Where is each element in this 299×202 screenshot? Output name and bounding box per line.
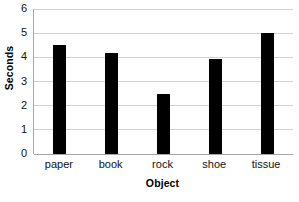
y-axis-tick-label: 4 (0, 51, 27, 62)
x-axis-tick-label: tissue (236, 158, 296, 170)
x-axis-tick-labels: paperbookrockshoetissue (33, 158, 292, 174)
y-axis-tick-label: 5 (0, 27, 27, 38)
y-axis-tick-label: 1 (0, 124, 27, 135)
y-axis-tick-label: 0 (0, 148, 27, 159)
y-axis-tick-label: 3 (0, 76, 27, 87)
bar-chart: Seconds 6543210 paperbookrockshoetissue … (0, 0, 299, 202)
x-axis-title: Object (33, 177, 292, 189)
y-axis-tick-label: 2 (0, 100, 27, 111)
y-axis-tick-label: 6 (0, 3, 27, 14)
